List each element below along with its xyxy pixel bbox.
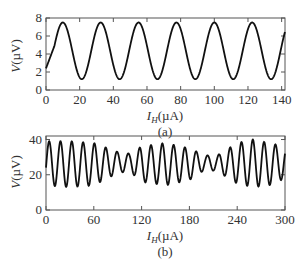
x-tick-label: 80 bbox=[174, 92, 187, 107]
data-line-a bbox=[46, 23, 285, 80]
x-tick-label: 120 bbox=[238, 92, 258, 107]
x-tick-label: 0 bbox=[43, 212, 50, 227]
x-tick-label: 60 bbox=[87, 212, 100, 227]
y-tick-label: 20 bbox=[29, 167, 42, 182]
x-ticks-a: 020406080100120140 bbox=[43, 18, 292, 107]
y-tick-label: 4 bbox=[36, 46, 43, 61]
x-tick-label: 120 bbox=[132, 212, 152, 227]
y-tick-label: 8 bbox=[36, 10, 43, 25]
data-line-b bbox=[46, 140, 285, 187]
x-tick-label: 0 bbox=[43, 92, 50, 107]
x-axis-label-a: IH(µA) bbox=[146, 108, 183, 125]
caption-b: (b) bbox=[157, 244, 172, 259]
x-tick-label: 40 bbox=[107, 92, 120, 107]
y-tick-label: 2 bbox=[36, 64, 43, 79]
y-axis-label-b: V(µV) bbox=[8, 155, 23, 189]
y-tick-label: 0 bbox=[36, 202, 43, 217]
x-tick-label: 20 bbox=[73, 92, 86, 107]
x-tick-label: 300 bbox=[275, 212, 295, 227]
chart-b: 060120180240300 02040 V(µV) IH(µA) (b) bbox=[8, 132, 295, 259]
x-tick-label: 60 bbox=[140, 92, 153, 107]
figure: 020406080100120140 02468 V(µV) IH(µA) (a… bbox=[0, 0, 308, 265]
y-tick-label: 6 bbox=[36, 28, 43, 43]
x-tick-label: 240 bbox=[227, 212, 247, 227]
caption-a: (a) bbox=[158, 124, 172, 139]
chart-a: 020406080100120140 02468 V(µV) IH(µA) (a… bbox=[8, 10, 291, 139]
y-tick-label: 40 bbox=[29, 132, 42, 147]
y-axis-label-a: V(µV) bbox=[8, 39, 23, 73]
x-tick-label: 100 bbox=[205, 92, 225, 107]
x-tick-label: 140 bbox=[272, 92, 292, 107]
y-tick-label: 0 bbox=[36, 82, 43, 97]
x-axis-label-b: IH(µA) bbox=[146, 228, 183, 245]
x-tick-label: 180 bbox=[180, 212, 200, 227]
